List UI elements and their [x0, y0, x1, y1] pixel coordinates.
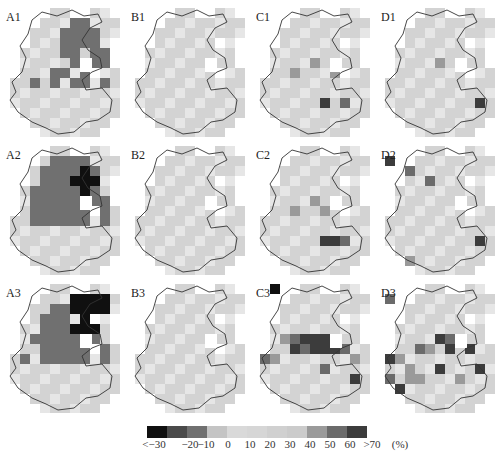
- panel-label: B1: [131, 10, 145, 25]
- legend-tick: <−30: [142, 438, 165, 450]
- panel-label: D1: [381, 10, 396, 25]
- map-panel-d1: D1: [377, 2, 499, 137]
- panel-label: B2: [131, 148, 145, 163]
- map-panel-c2: C2: [252, 140, 374, 275]
- map-panel-d3: D3: [377, 278, 499, 413]
- legend-swatch: [167, 426, 187, 438]
- legend-tick: (%): [392, 438, 409, 450]
- map-panel-a3: A3: [2, 278, 124, 413]
- legend-swatch: [187, 426, 207, 438]
- panel-label: D3: [381, 286, 396, 301]
- map-panel-d2: D2: [377, 140, 499, 275]
- legend-tick: 20: [265, 438, 276, 450]
- panel-label: C1: [256, 10, 270, 25]
- legend-tick: >70: [363, 438, 380, 450]
- map-panel-b2: B2: [127, 140, 249, 275]
- legend-tick-labels: <−30−20−100102030405060>70(%): [140, 438, 440, 454]
- map-panel-a1: A1: [2, 2, 124, 137]
- map-panel-a2: A2: [2, 140, 124, 275]
- legend-swatch: [267, 426, 287, 438]
- legend-tick: 0: [225, 438, 231, 450]
- legend-swatch: [327, 426, 347, 438]
- map-panel-b3: B3: [127, 278, 249, 413]
- legend-swatch: [287, 426, 307, 438]
- panel-label: C2: [256, 148, 270, 163]
- panel-label: D2: [381, 148, 396, 163]
- legend-swatch: [307, 426, 327, 438]
- legend-swatch: [147, 426, 167, 438]
- legend-tick: −20: [181, 438, 198, 450]
- color-legend: [147, 426, 367, 438]
- panel-label: A3: [6, 286, 21, 301]
- legend-tick: 60: [345, 438, 356, 450]
- panel-label: A1: [6, 10, 21, 25]
- legend-swatch: [227, 426, 247, 438]
- legend-tick: 40: [305, 438, 316, 450]
- legend-tick: −10: [197, 438, 214, 450]
- panel-label: C3: [256, 286, 270, 301]
- panel-label: A2: [6, 148, 21, 163]
- legend-swatch: [347, 426, 367, 438]
- map-panel-c3: C3: [252, 278, 374, 413]
- legend-tick: 10: [245, 438, 256, 450]
- legend-tick: 30: [285, 438, 296, 450]
- legend-swatch: [207, 426, 227, 438]
- legend-tick: 50: [325, 438, 336, 450]
- legend-swatch: [247, 426, 267, 438]
- panel-label: B3: [131, 286, 145, 301]
- map-panel-b1: B1: [127, 2, 249, 137]
- map-panel-c1: C1: [252, 2, 374, 137]
